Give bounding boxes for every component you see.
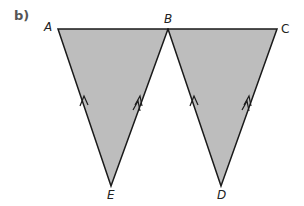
point-label-c: C — [281, 22, 289, 36]
triangle-bcd — [168, 29, 277, 186]
triangle-abe — [58, 29, 168, 186]
point-label-d: D — [217, 188, 226, 202]
point-label-b: B — [164, 12, 172, 26]
point-label-a: A — [43, 20, 52, 34]
diagram-canvas: b) A B C E D — [0, 0, 304, 206]
point-label-e: E — [107, 188, 115, 202]
part-label: b) — [14, 8, 29, 23]
